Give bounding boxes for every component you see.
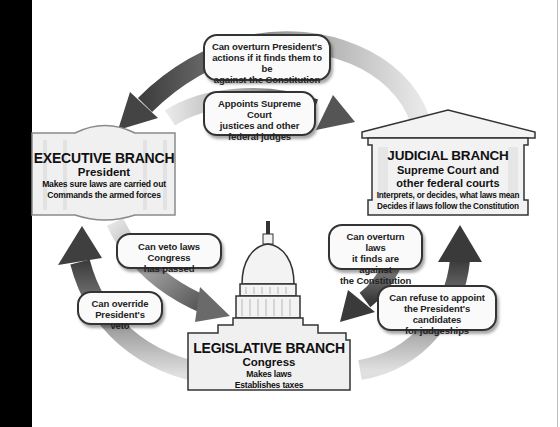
legislative-branch-box: LEGISLATIVE BRANCH Congress Makes laws E… bbox=[188, 340, 350, 391]
executive-branch-title: EXECUTIVE BRANCH bbox=[32, 150, 176, 166]
callout-line: against the Constitution bbox=[211, 74, 323, 85]
judicial-branch-box: JUDICIAL BRANCH Supreme Court and other … bbox=[368, 148, 528, 212]
callout-judicial-on-executive: Can overturn President's actions if it f… bbox=[203, 34, 331, 81]
judicial-branch-title: JUDICIAL BRANCH bbox=[368, 148, 528, 164]
callout-line: Appoints Supreme Court bbox=[211, 98, 308, 120]
callout-line: Can overturn President's bbox=[211, 41, 323, 52]
judicial-duty: Interprets, or decides, what laws mean bbox=[368, 190, 528, 201]
callout-judicial-on-legislative: Can overturn laws it finds are against t… bbox=[328, 224, 423, 270]
callout-line: has passed bbox=[124, 263, 214, 274]
callout-line: actions if it finds them to be bbox=[211, 52, 323, 74]
executive-branch-subtitle: President bbox=[32, 166, 176, 179]
judicial-duty: Decides if laws follow the Constitution bbox=[368, 201, 528, 212]
legislative-duty: Makes laws bbox=[188, 369, 350, 380]
callout-executive-on-judicial: Appoints Supreme Court justices and othe… bbox=[203, 91, 316, 136]
callout-line: President's veto bbox=[85, 309, 155, 331]
callout-line: the President's candidates bbox=[385, 303, 489, 325]
legislative-branch-subtitle: Congress bbox=[188, 356, 350, 369]
executive-duty: Commands the armed forces bbox=[32, 190, 176, 201]
callout-executive-on-legislative: Can veto laws Congress has passed bbox=[116, 233, 222, 269]
callout-line: for judgeships bbox=[385, 325, 489, 336]
callout-line: justices and other bbox=[211, 120, 308, 131]
legislative-duty: Establishes taxes bbox=[188, 380, 350, 391]
callout-line: Can refuse to appoint bbox=[385, 292, 489, 303]
callout-line: federal judges bbox=[211, 131, 308, 142]
callout-line: Can override bbox=[85, 298, 155, 309]
executive-branch-box: EXECUTIVE BRANCH President Makes sure la… bbox=[32, 150, 176, 201]
callout-legislative-on-judicial: Can refuse to appoint the President's ca… bbox=[377, 285, 497, 331]
callout-legislative-on-executive: Can override President's veto bbox=[77, 291, 163, 325]
legislative-branch-title: LEGISLATIVE BRANCH bbox=[188, 340, 350, 356]
judicial-branch-subtitle: Supreme Court and bbox=[368, 164, 528, 177]
callout-line: it finds are against bbox=[336, 253, 415, 275]
executive-duty: Makes sure laws are carried out bbox=[32, 179, 176, 190]
callout-line: Can veto laws Congress bbox=[124, 241, 214, 263]
judicial-branch-subtitle: other federal courts bbox=[368, 177, 528, 190]
callout-line: Can overturn laws bbox=[336, 231, 415, 253]
